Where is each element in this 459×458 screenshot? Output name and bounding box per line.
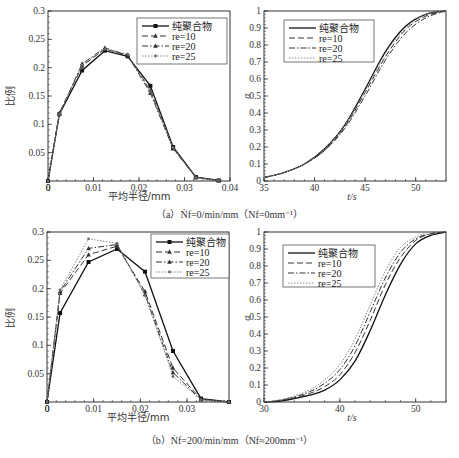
y-axis-label: α [241, 315, 252, 321]
y-tick-label: 1 [256, 6, 261, 16]
svg-text:0: 0 [46, 183, 51, 193]
y-tick-label: 0.3 [33, 6, 45, 16]
series-line-0 [48, 51, 219, 181]
series-line-2 [48, 48, 219, 181]
svg-text:0: 0 [45, 404, 50, 414]
x-tick-label: 40 [335, 404, 345, 414]
y-tick-label: 0.1 [249, 159, 261, 169]
y-tick-label: 0.7 [249, 278, 261, 288]
figure-canvas: 00.010.020.030.040.050.10.150.20.250.30比… [0, 0, 459, 458]
chart-a_right: 3540455000.10.20.30.40.50.60.70.80.91αt/… [241, 6, 446, 202]
series-line-3 [48, 49, 219, 181]
x-tick-label: 0.01 [85, 183, 102, 193]
y-tick-label: 0.25 [28, 34, 45, 44]
y-tick-label: 0.15 [27, 312, 44, 322]
y-tick-label: 0.4 [249, 329, 261, 339]
y-tick-label: 0.8 [249, 40, 261, 50]
x-tick-label: 50 [411, 404, 421, 414]
y-axis-label: 比例 [4, 86, 16, 106]
chart-b_left: 00.010.020.030.050.10.150.20.250.30比例平均半… [4, 227, 231, 423]
y-tick-label: 0.1 [33, 119, 45, 129]
y-tick-label: 0.2 [32, 284, 44, 294]
y-tick-label: 0.1 [32, 340, 44, 350]
x-axis-label: t/s [347, 412, 357, 423]
y-tick-label: 0 [256, 176, 261, 186]
series-line-1 [48, 49, 219, 181]
legend: 纯聚合物re=10re=20re=25 [284, 20, 374, 64]
y-tick-label: 0.3 [249, 346, 261, 356]
x-tick-label: 0.01 [85, 404, 102, 414]
chart-b_right: 30405000.10.20.30.40.50.60.70.80.91αt/s纯… [241, 227, 446, 423]
y-tick-label: 0.15 [28, 91, 45, 101]
caption-b: （b）Ṅf=200/min/mm（Nf≈200mm⁻¹） [0, 432, 459, 447]
legend-label: re=25 [319, 53, 342, 64]
y-tick-label: 0.1 [249, 380, 261, 390]
legend: 纯聚合物re=10re=20re=25 [283, 245, 375, 289]
y-tick-label: 0.7 [249, 57, 261, 67]
y-tick-label: 0.2 [249, 142, 261, 152]
y-tick-label: 0.25 [27, 255, 44, 265]
y-tick-label: 0.9 [249, 244, 261, 254]
y-axis-label: α [241, 93, 252, 99]
legend: 纯聚合物re=10re=20re=25 [137, 18, 227, 64]
y-tick-label: 0.05 [27, 369, 44, 379]
legend-label: re=25 [172, 51, 195, 62]
y-tick-label: 0.3 [249, 125, 261, 135]
y-tick-label: 0.05 [28, 148, 45, 158]
x-axis-label: 平均半径/mm [108, 190, 171, 202]
y-tick-label: 0.4 [249, 108, 261, 118]
x-tick-label: 50 [411, 183, 421, 193]
y-tick-label: 0.8 [249, 261, 261, 271]
y-axis-label: 比例 [4, 308, 16, 328]
chart-a_left: 00.010.020.030.040.050.10.150.20.250.30比… [4, 6, 239, 202]
x-tick-label: 45 [360, 183, 370, 193]
x-tick-label: 0.04 [222, 183, 239, 193]
y-tick-label: 0.3 [32, 227, 44, 237]
y-tick-label: 1 [256, 227, 261, 237]
y-tick-label: 0.6 [249, 74, 261, 84]
y-tick-label: 0.9 [249, 23, 261, 33]
y-tick-label: 0 [256, 397, 261, 407]
caption-a: （a）Ṅf=0/min/mm（Nf=0mm⁻¹） [0, 206, 459, 221]
y-tick-label: 0.2 [33, 63, 45, 73]
legend-label: re=25 [318, 278, 341, 289]
x-tick-label: 40 [310, 183, 320, 193]
x-tick-label: 0.03 [179, 404, 196, 414]
legend-label: re=25 [186, 267, 209, 278]
y-tick-label: 0.2 [249, 363, 261, 373]
legend: 纯聚合物re=10re=20re=25 [151, 234, 229, 278]
x-axis-label: t/s [347, 191, 357, 202]
x-tick-label: 0.03 [176, 183, 193, 193]
x-axis-label: 平均半径/mm [107, 411, 170, 423]
y-tick-label: 0.6 [249, 295, 261, 305]
